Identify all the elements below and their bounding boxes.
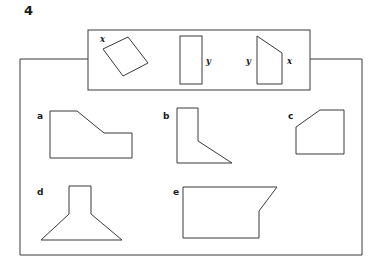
answer-label-e: e	[173, 187, 179, 197]
answer-shape-b	[177, 108, 232, 163]
answer-shape-a	[50, 111, 132, 158]
upright-rectangle-label-y: y	[205, 56, 212, 66]
rotated-rectangle-label-x: x	[99, 34, 106, 44]
answer-label-c: c	[288, 111, 293, 121]
right-trapezoid-label-y: y	[245, 56, 252, 66]
right-trapezoid-shape: y x	[245, 36, 293, 84]
answer-option-e: e	[173, 187, 277, 238]
answer-option-c: c	[288, 110, 344, 154]
answer-label-b: b	[163, 111, 170, 121]
answer-label-a: a	[37, 111, 43, 121]
answer-shape-c	[296, 110, 344, 154]
figure-canvas: x y y x a b c	[0, 0, 382, 270]
geometry-figure: 4 x y y x	[0, 0, 382, 270]
answer-shape-d	[41, 186, 122, 240]
answer-option-b: b	[163, 108, 232, 163]
rotated-rectangle-shape: x	[99, 34, 148, 76]
answer-shape-e	[183, 187, 277, 238]
answer-option-a: a	[37, 111, 132, 158]
upright-rectangle-shape: y	[180, 36, 212, 84]
right-trapezoid-label-x: x	[286, 56, 293, 66]
answer-label-d: d	[37, 187, 43, 197]
answer-option-d: d	[37, 186, 122, 240]
outer-frame	[20, 59, 362, 255]
question-number: 4	[24, 4, 33, 18]
cross-section-prompt-box: x y y x	[88, 30, 310, 90]
